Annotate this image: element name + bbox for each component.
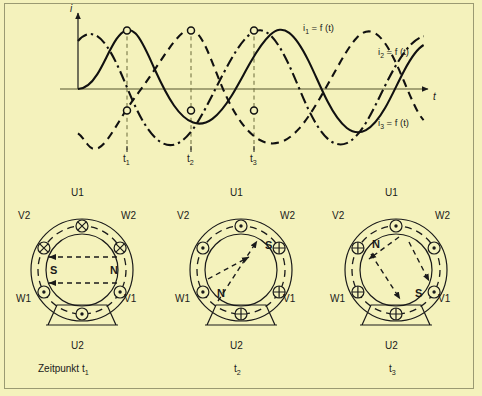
motor1-terminal-label-v1: V1 bbox=[124, 294, 136, 304]
motor-diagram-t3 bbox=[345, 219, 447, 325]
terminal-symbol-w2-t2 bbox=[273, 242, 285, 254]
motor1-terminal-label-u2: U2 bbox=[71, 341, 84, 351]
figure-root: i t i1 = f (t) i2 = f (t) i3 = f (t) t1 … bbox=[0, 0, 482, 396]
terminal-symbol-u2-t1 bbox=[76, 308, 88, 320]
y-axis-label: i bbox=[70, 4, 72, 14]
motor2-terminal-label-v2: V2 bbox=[177, 211, 189, 221]
field-arrow-right-t3 bbox=[409, 242, 429, 281]
motor2-pole-label-left: N bbox=[217, 288, 225, 299]
tick-t3-subscript: 3 bbox=[253, 158, 257, 167]
marker-point-t2-bottom bbox=[188, 107, 195, 114]
time-ticks bbox=[127, 146, 254, 152]
motor1-terminal-label-w1: W1 bbox=[16, 294, 31, 304]
motor1-pole-label-right: N bbox=[110, 265, 118, 276]
motor1-terminal-label-v2: V2 bbox=[18, 211, 30, 221]
legend-i1-expression: = f (t) bbox=[309, 22, 334, 33]
terminal-symbol-u2-t3 bbox=[390, 308, 402, 320]
field-arrow-lower-t2 bbox=[208, 257, 249, 279]
motor2-pole-label-right: S bbox=[265, 240, 272, 251]
marker-point-t3-bottom bbox=[251, 107, 258, 114]
marker-point-t1-bottom bbox=[124, 107, 131, 114]
terminal-symbol-v2-t1 bbox=[38, 242, 50, 254]
tick-label-t2: t2 bbox=[187, 154, 194, 166]
motor3-terminal-label-w1: W1 bbox=[330, 294, 345, 304]
terminal-symbol-v2-t2 bbox=[197, 242, 209, 254]
motor1-terminal-label-w2: W2 bbox=[121, 211, 136, 221]
field-arrow-lower-t3 bbox=[371, 254, 400, 299]
field-arrows-t1 bbox=[49, 257, 117, 283]
motor3-terminal-label-v2: V2 bbox=[332, 211, 344, 221]
terminal-symbol-w2-t1 bbox=[114, 242, 126, 254]
motor2-terminal-label-u2: U2 bbox=[230, 341, 243, 351]
terminal-symbol-w2-t3 bbox=[428, 242, 440, 254]
legend-i3-expression: = f (t) bbox=[384, 117, 409, 128]
terminal-symbol-v2-t3 bbox=[352, 242, 364, 254]
terminal-symbol-w1-t2 bbox=[197, 286, 209, 298]
terminal-symbol-u2-t2 bbox=[235, 308, 247, 320]
motor1-terminal-label-u1: U1 bbox=[71, 188, 84, 198]
marker-point-t3-top bbox=[251, 27, 258, 34]
x-axis-label: t bbox=[433, 92, 436, 102]
motor3-pole-label-left: N bbox=[372, 239, 380, 250]
motor2-terminal-label-w1: W1 bbox=[175, 294, 190, 304]
tick-t1-subscript: 1 bbox=[126, 158, 130, 167]
curve-i3 bbox=[78, 30, 424, 145]
tick-label-t3: t3 bbox=[250, 154, 257, 166]
motor-diagram-t2 bbox=[190, 219, 292, 325]
tick-label-t1: t1 bbox=[123, 154, 130, 166]
waveform-chart bbox=[60, 13, 428, 152]
motor3-terminal-label-w2: W2 bbox=[435, 211, 450, 221]
motor1-caption-subscript: 1 bbox=[85, 368, 89, 377]
terminal-symbol-u1-t1 bbox=[76, 220, 88, 232]
motor3-terminal-label-u1: U1 bbox=[385, 188, 398, 198]
legend-label-i1: i1 = f (t) bbox=[303, 23, 334, 36]
legend-label-i3: i3 = f (t) bbox=[378, 118, 409, 131]
field-arrows-t2 bbox=[208, 241, 257, 301]
legend-label-i2: i2 = f (t) bbox=[378, 47, 409, 60]
motor2-terminal-label-u1: U1 bbox=[230, 188, 243, 198]
motor1-caption: Zeitpunkt t1 bbox=[38, 364, 89, 376]
terminal-symbol-w1-t1 bbox=[38, 286, 50, 298]
motor3-terminal-label-u2: U2 bbox=[385, 341, 398, 351]
tick-t2-subscript: 2 bbox=[190, 158, 194, 167]
motor2-terminal-label-v1: V1 bbox=[283, 294, 295, 304]
motor3-terminal-label-v1: V1 bbox=[438, 294, 450, 304]
motor1-pole-label-left: S bbox=[50, 265, 57, 276]
terminal-symbol-u1-t3 bbox=[390, 220, 402, 232]
figure-graphics bbox=[0, 0, 482, 396]
motor2-caption: t2 bbox=[234, 364, 241, 376]
motor1-caption-prefix: Zeitpunkt bbox=[38, 363, 82, 374]
motor3-pole-label-right: S bbox=[415, 288, 422, 299]
marker-point-t2-top bbox=[188, 27, 195, 34]
motor2-terminal-label-w2: W2 bbox=[280, 211, 295, 221]
legend-i2-expression: = f (t) bbox=[384, 46, 409, 57]
motor2-caption-subscript: 2 bbox=[237, 368, 241, 377]
curve-i1 bbox=[78, 30, 424, 133]
terminal-symbol-u1-t2 bbox=[235, 220, 247, 232]
terminal-symbol-w1-t3 bbox=[352, 286, 364, 298]
motor3-caption-subscript: 3 bbox=[392, 368, 396, 377]
marker-point-t1-top bbox=[124, 27, 131, 34]
motor3-caption: t3 bbox=[389, 364, 396, 376]
